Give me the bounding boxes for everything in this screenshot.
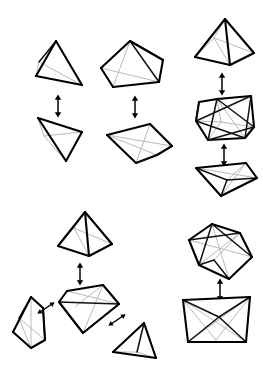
group-top-right: [195, 19, 257, 196]
polyhedra-figure: [0, 0, 263, 378]
open-bipyramid: [183, 297, 250, 342]
figure-canvas: [0, 0, 263, 378]
cube-with-inscribed-octahedron: [196, 96, 254, 140]
